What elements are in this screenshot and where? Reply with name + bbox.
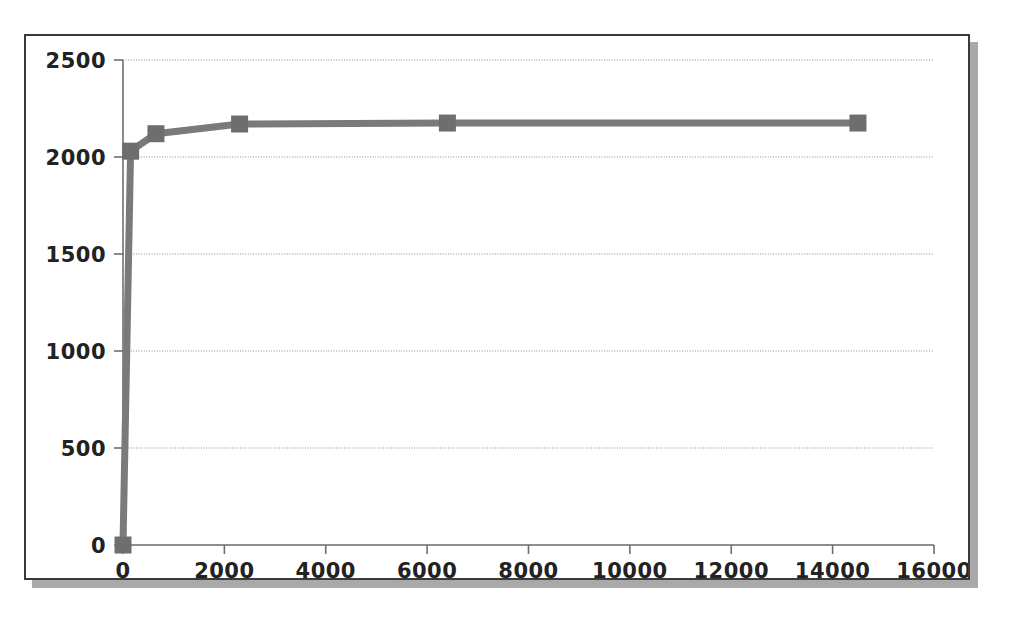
x-tick-label: 8000 — [498, 559, 558, 578]
tickmarks-group — [114, 60, 934, 554]
axes-group — [123, 60, 934, 545]
data-point-marker — [439, 115, 456, 132]
y-tick-label: 1000 — [46, 340, 106, 364]
plot-area: 05001000150020002500 0200040006000800010… — [26, 36, 968, 578]
y-tick-label: 1500 — [46, 243, 106, 267]
y-tick-label: 500 — [61, 437, 106, 461]
gridlines-group — [123, 60, 934, 545]
x-tick-label: 0 — [115, 559, 130, 578]
y-tick-label: 0 — [91, 534, 106, 558]
y-tick-label: 2500 — [46, 49, 106, 73]
x-tick-label: 2000 — [194, 559, 254, 578]
x-tick-label: 14000 — [795, 559, 871, 578]
series-markers-group — [115, 115, 867, 554]
chart-frame: 05001000150020002500 0200040006000800010… — [24, 34, 970, 580]
x-tick-labels-group: 0200040006000800010000120001400016000 — [115, 559, 968, 578]
data-point-marker — [231, 116, 248, 133]
page-canvas: 05001000150020002500 0200040006000800010… — [0, 0, 1028, 632]
x-tick-label: 12000 — [693, 559, 769, 578]
x-tick-label: 10000 — [592, 559, 668, 578]
data-point-marker — [122, 143, 139, 160]
x-tick-label: 4000 — [296, 559, 356, 578]
series-line-path — [123, 123, 858, 545]
data-point-marker — [849, 115, 866, 132]
data-series-group — [115, 115, 867, 554]
x-tick-label: 16000 — [896, 559, 968, 578]
line-chart: 05001000150020002500 0200040006000800010… — [26, 36, 968, 578]
y-tick-label: 2000 — [46, 146, 106, 170]
data-point-marker — [115, 537, 132, 554]
data-point-marker — [147, 125, 164, 142]
y-tick-labels-group: 05001000150020002500 — [46, 49, 106, 558]
x-tick-label: 6000 — [397, 559, 457, 578]
